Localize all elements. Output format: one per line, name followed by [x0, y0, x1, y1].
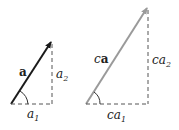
angle-arc-icon: [20, 91, 28, 104]
vector-a-label: a: [19, 65, 27, 79]
a1-label: a1: [27, 107, 39, 123]
vector-ca-label: ca: [94, 52, 109, 66]
angle-arc-icon: [94, 92, 100, 104]
a2-label: a2: [56, 67, 68, 83]
ca1-label: ca1: [107, 108, 126, 124]
ca2-label: ca2: [152, 53, 171, 69]
vector-diagram: a a2 a1 ca ca2 ca1: [0, 0, 179, 130]
vector-a-arrow: [11, 42, 51, 104]
left-figure: a a2 a1: [11, 42, 68, 123]
right-figure: ca ca2 ca1: [86, 8, 171, 124]
